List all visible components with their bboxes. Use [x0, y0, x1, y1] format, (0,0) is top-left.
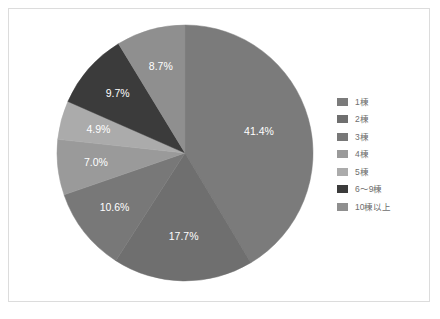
legend-item-label: 5棟	[355, 168, 369, 177]
legend-item-label: 1棟	[355, 98, 369, 107]
chart-legend: 1棟2棟3棟4棟5棟6〜9棟10棟以上	[337, 93, 423, 216]
pie-chart: 41.4%17.7%10.6%7.0%4.9%9.7%8.7%	[56, 22, 314, 284]
chart-frame: 41.4%17.7%10.6%7.0%4.9%9.7%8.7% 1棟2棟3棟4棟…	[8, 8, 430, 302]
legend-item-label: 2棟	[355, 115, 369, 124]
legend-swatch-icon	[337, 115, 348, 123]
pie-data-label: 9.7%	[106, 87, 130, 99]
pie-data-label: 41.4%	[244, 125, 274, 137]
legend-swatch-icon	[337, 133, 348, 141]
legend-item[interactable]: 6〜9棟	[337, 181, 423, 199]
legend-swatch-icon	[337, 98, 348, 106]
legend-item[interactable]: 5棟	[337, 163, 423, 181]
legend-item[interactable]: 3棟	[337, 128, 423, 146]
legend-item-label: 6〜9棟	[355, 185, 382, 194]
pie-slice-group	[57, 25, 313, 281]
legend-swatch-icon	[337, 203, 348, 211]
legend-swatch-icon	[337, 185, 348, 193]
pie-data-label: 7.0%	[84, 156, 108, 168]
legend-item[interactable]: 4棟	[337, 146, 423, 164]
legend-swatch-icon	[337, 168, 348, 176]
legend-item-label: 3棟	[355, 133, 369, 142]
pie-data-label: 17.7%	[169, 230, 199, 242]
legend-item[interactable]: 10棟以上	[337, 198, 423, 216]
legend-swatch-icon	[337, 150, 348, 158]
pie-data-label: 8.7%	[149, 60, 173, 72]
legend-item-label: 4棟	[355, 150, 369, 159]
pie-data-label: 4.9%	[86, 123, 110, 135]
legend-item[interactable]: 2棟	[337, 111, 423, 129]
plot-area: 41.4%17.7%10.6%7.0%4.9%9.7%8.7% 1棟2棟3棟4棟…	[9, 9, 429, 301]
legend-item-label: 10棟以上	[355, 203, 391, 212]
legend-item[interactable]: 1棟	[337, 93, 423, 111]
pie-svg: 41.4%17.7%10.6%7.0%4.9%9.7%8.7%	[56, 22, 314, 284]
pie-data-label: 10.6%	[100, 201, 130, 213]
